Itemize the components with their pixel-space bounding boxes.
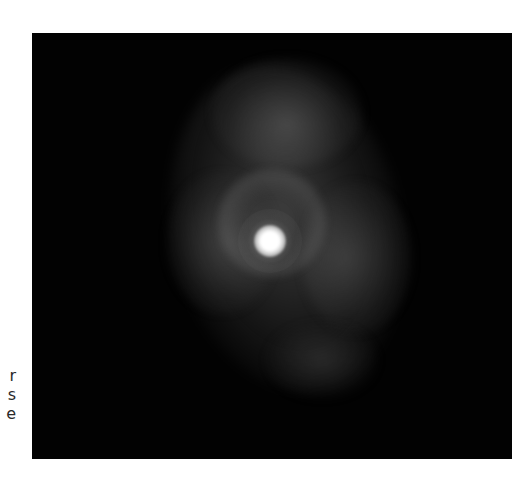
text-line-fragment: e (0, 404, 16, 423)
text-line-fragment: r (0, 366, 16, 385)
nebula-top-lobe (212, 58, 362, 168)
text-line-fragment: s (0, 385, 16, 404)
nebula-bottom-lobe (267, 323, 377, 398)
central-star (254, 225, 286, 257)
nebula-image (32, 33, 512, 459)
cropped-paragraph-text: r s e (0, 366, 16, 423)
